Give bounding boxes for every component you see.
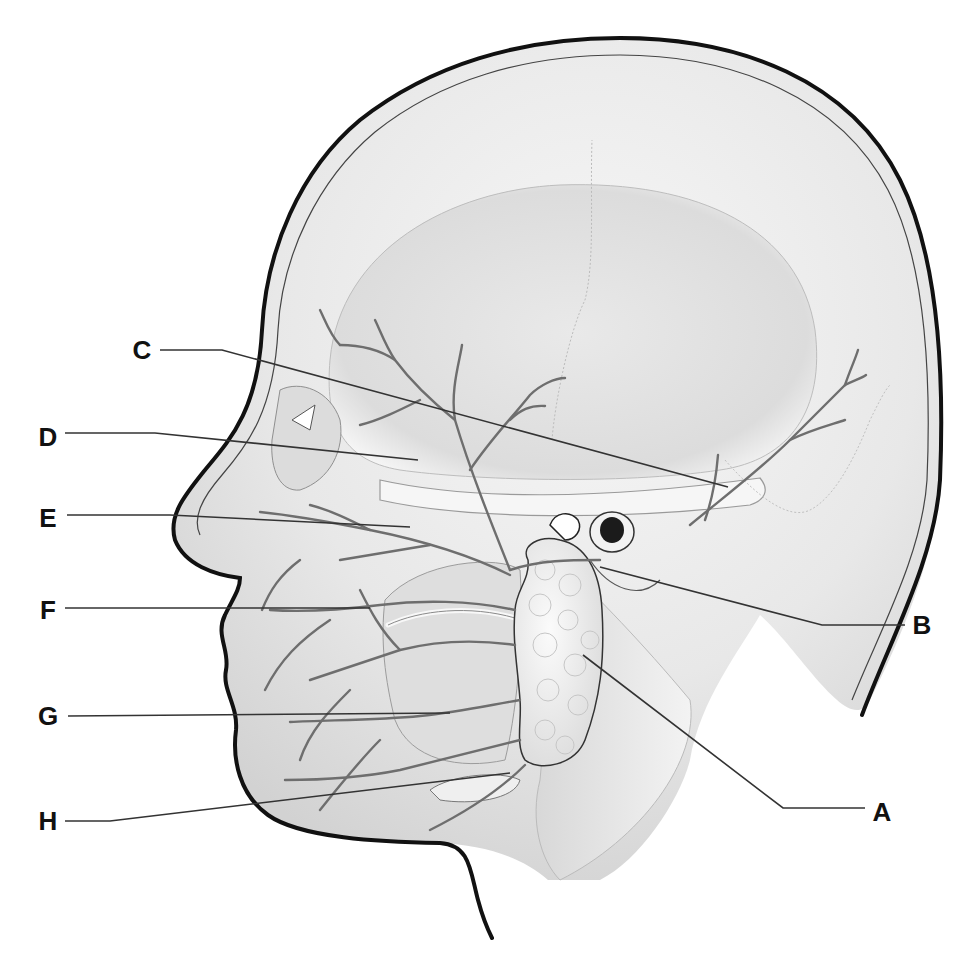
label-h: H <box>39 808 58 834</box>
label-e: E <box>39 505 56 531</box>
label-b: B <box>913 612 932 638</box>
label-f: F <box>40 597 56 623</box>
anatomy-illustration <box>0 0 967 954</box>
masseter-muscle <box>383 562 521 763</box>
label-a: A <box>873 799 892 825</box>
label-c: C <box>133 337 152 363</box>
label-g: G <box>38 703 58 729</box>
label-d: D <box>39 424 58 450</box>
